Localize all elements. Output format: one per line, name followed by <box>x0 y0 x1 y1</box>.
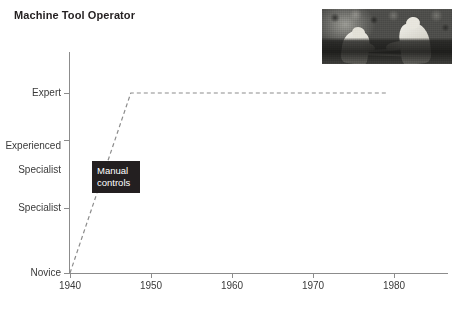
annotation-manual-controls: Manual controls <box>92 161 140 193</box>
skill-level-dashed-line <box>0 0 457 310</box>
plot-area: Expert Experienced Specialist Specialist… <box>0 0 457 310</box>
annotation-line1: Manual <box>97 165 135 177</box>
annotation-line2: controls <box>97 177 135 189</box>
chart-figure: Machine Tool Operator Expert Experienced… <box>0 0 457 310</box>
